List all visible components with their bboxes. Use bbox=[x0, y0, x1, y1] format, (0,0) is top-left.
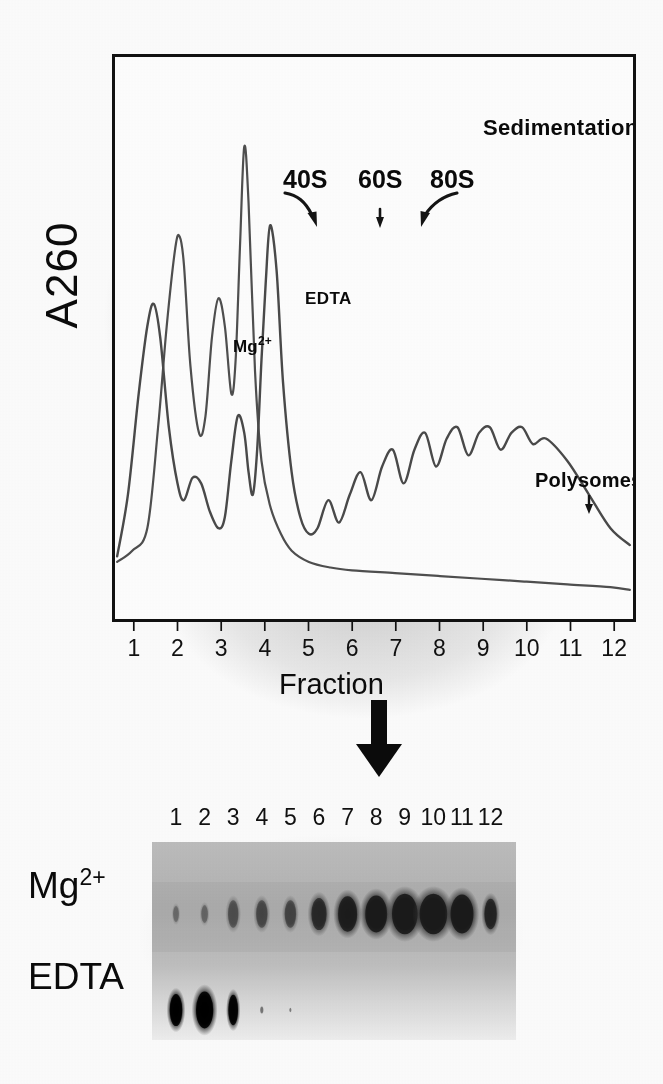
x-tick-label-12: 12 bbox=[601, 635, 627, 662]
blot-lane-number-8: 8 bbox=[370, 804, 383, 831]
blot-lane-number-9: 9 bbox=[398, 804, 411, 831]
blot-lane-number-12: 12 bbox=[478, 804, 504, 831]
blot-band-core bbox=[170, 994, 182, 1026]
blot-lane-number-3: 3 bbox=[227, 804, 240, 831]
peak-pointer-arrows-icon bbox=[275, 187, 505, 242]
trace-mg-path bbox=[117, 225, 630, 556]
blot-lane-number-4: 4 bbox=[255, 804, 268, 831]
blot-band-core bbox=[260, 1007, 263, 1013]
blot-lane-number-11: 11 bbox=[450, 804, 474, 831]
blot-lane-number-6: 6 bbox=[313, 804, 326, 831]
x-tick-label-6: 6 bbox=[346, 635, 359, 662]
polysomes-label: Polysomes bbox=[535, 469, 633, 492]
x-axis-ticks bbox=[112, 622, 636, 634]
x-tick-label-1: 1 bbox=[127, 635, 140, 662]
blot-section: 123456789101112 Mg2+ EDTA bbox=[0, 804, 663, 1054]
blot-row-label-mg: Mg2+ bbox=[28, 864, 106, 907]
polysomes-arrow-icon bbox=[582, 495, 596, 515]
x-tick-label-9: 9 bbox=[477, 635, 490, 662]
blot-lane-number-10: 10 bbox=[421, 804, 447, 831]
x-tick-label-2: 2 bbox=[171, 635, 184, 662]
blot-lane-number-row: 123456789101112 bbox=[150, 804, 550, 838]
blot-band-core bbox=[228, 995, 238, 1026]
blot-row-label-mg-superscript: 2+ bbox=[79, 864, 105, 890]
trace-label-mg: Mg2+ bbox=[233, 334, 272, 357]
y-axis-label: A260 bbox=[37, 195, 87, 355]
polysome-plot-panel: Sedimentation 40S 60S 80S bbox=[112, 54, 636, 622]
blot-bands-svg bbox=[152, 842, 516, 1040]
profile-traces-svg bbox=[115, 57, 632, 618]
blot-lane-number-7: 7 bbox=[341, 804, 354, 831]
flow-down-arrow-icon bbox=[352, 700, 406, 778]
plot-inner: Sedimentation 40S 60S 80S bbox=[115, 57, 633, 619]
x-axis-label: Fraction bbox=[0, 668, 663, 701]
x-tick-label-10: 10 bbox=[514, 635, 540, 662]
polysome-profile-figure: in before or bleed through from page bac… bbox=[0, 0, 663, 1084]
blot-autoradiograph bbox=[152, 842, 516, 1040]
blot-row-label-edta: EDTA bbox=[28, 956, 124, 998]
blot-band-core bbox=[289, 1008, 291, 1012]
blot-row-labels: Mg2+ EDTA bbox=[18, 842, 148, 1040]
blot-band-core bbox=[196, 992, 213, 1029]
x-tick-label-3: 3 bbox=[215, 635, 228, 662]
x-tick-label-7: 7 bbox=[389, 635, 402, 662]
x-tick-label-11: 11 bbox=[559, 635, 583, 662]
x-tick-label-8: 8 bbox=[433, 635, 446, 662]
trace-label-edta: EDTA bbox=[305, 289, 352, 309]
x-axis: 123456789101112 bbox=[112, 622, 636, 668]
trace-label-mg-superscript: 2+ bbox=[258, 334, 272, 348]
blot-lane-number-1: 1 bbox=[170, 804, 183, 831]
x-tick-label-5: 5 bbox=[302, 635, 315, 662]
trace-label-mg-text: Mg bbox=[233, 337, 258, 356]
sedimentation-label: Sedimentation bbox=[483, 115, 633, 141]
x-tick-label-4: 4 bbox=[258, 635, 271, 662]
blot-lane-number-2: 2 bbox=[198, 804, 211, 831]
blot-row-label-mg-text: Mg bbox=[28, 865, 79, 906]
blot-lane-number-5: 5 bbox=[284, 804, 297, 831]
